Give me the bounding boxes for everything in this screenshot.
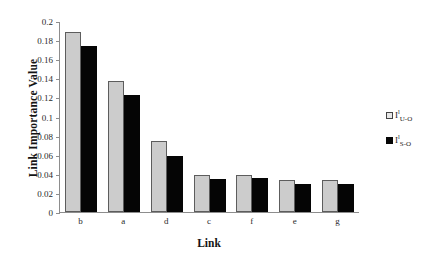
- bar-g-series2: [338, 184, 354, 212]
- x-axis-tick-label: c: [188, 216, 231, 232]
- y-axis-tick-label: 0.14: [37, 74, 53, 84]
- bar-e-series1: [279, 180, 295, 212]
- plot-area: 00.020.040.060.080.10.120.140.160.180.2: [59, 22, 359, 213]
- legend-label-u-o: IlU-O: [395, 108, 412, 123]
- y-axis-tick-label: 0.04: [37, 170, 53, 180]
- y-axis-tick-label: 0.1: [42, 113, 53, 123]
- bar-a-series1: [108, 81, 124, 212]
- bar-group: [274, 22, 317, 212]
- bar-group: [60, 22, 103, 212]
- y-axis-tick: [56, 213, 60, 214]
- x-axis-title: Link: [59, 237, 359, 249]
- y-axis-tick-label: 0.2: [42, 17, 53, 27]
- y-axis-tick-label: 0.08: [37, 132, 53, 142]
- y-axis-tick-label: 0.18: [37, 36, 53, 46]
- x-axis-tick-label: e: [273, 216, 316, 232]
- y-axis-title: Link Importance Value: [27, 23, 39, 213]
- bar-groups: [60, 22, 359, 212]
- legend-sub-u-o: U-O: [400, 115, 412, 123]
- legend-item-s-o: IlS-O: [386, 133, 412, 148]
- x-axis-tick-labels: badcfeg: [59, 216, 359, 232]
- bar-e-series2: [295, 184, 311, 212]
- legend-swatch-icon-u-o: [386, 112, 393, 119]
- bar-group: [145, 22, 188, 212]
- bar-a-series2: [124, 95, 140, 212]
- bar-group: [188, 22, 231, 212]
- bar-b-series2: [81, 46, 97, 212]
- y-axis-tick-label: 0.16: [37, 55, 53, 65]
- legend-sub-s-o: S-O: [400, 140, 411, 148]
- y-axis-tick-label: 0.02: [37, 189, 53, 199]
- x-axis-tick-label: b: [59, 216, 102, 232]
- chart-figure: Link Importance Value 00.020.040.060.080…: [0, 0, 441, 273]
- bar-b-series1: [65, 32, 81, 212]
- x-axis-tick-label: d: [145, 216, 188, 232]
- bar-g-series1: [322, 180, 338, 212]
- legend: IlU-O IlS-O: [386, 108, 412, 148]
- y-axis-tick-label: 0.12: [37, 93, 53, 103]
- bar-d-series2: [167, 156, 183, 212]
- bar-c-series2: [210, 179, 226, 212]
- y-axis-tick-label: 0.06: [37, 151, 53, 161]
- bar-f-series2: [252, 178, 268, 212]
- bar-d-series1: [151, 141, 167, 212]
- bar-f-series1: [236, 175, 252, 212]
- y-axis-tick-label: 0: [49, 208, 54, 218]
- legend-label-s-o: IlS-O: [395, 133, 411, 148]
- x-axis-tick-label: a: [102, 216, 145, 232]
- bar-group: [316, 22, 359, 212]
- bar-group: [231, 22, 274, 212]
- x-axis-tick-label: f: [230, 216, 273, 232]
- legend-item-u-o: IlU-O: [386, 108, 412, 123]
- bar-c-series1: [194, 175, 210, 212]
- legend-swatch-icon-s-o: [386, 137, 393, 144]
- x-axis-tick-label: g: [316, 216, 359, 232]
- bar-group: [103, 22, 146, 212]
